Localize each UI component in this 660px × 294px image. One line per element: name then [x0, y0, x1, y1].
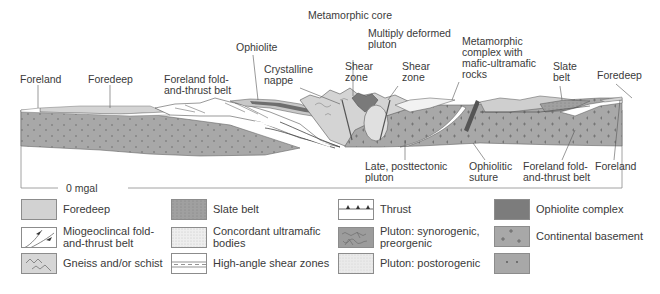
legend-pluton-synorogenic: Pluton: synorogenic, preorgenic [338, 226, 480, 249]
label-ophiolite: Ophiolite [236, 42, 277, 53]
legend-thrust: Thrust [338, 199, 411, 220]
legend-ophiolite-complex: Ophiolite complex [494, 199, 623, 220]
label-metamorphic-complex: Metamorphic complex with mafic-ultramafi… [462, 36, 536, 80]
plus-pattern-icon [495, 227, 530, 247]
label-shear-zone-left: Shear zone [345, 61, 373, 83]
legend-ultramafic: Concordant ultramafic bodies [171, 226, 321, 249]
label-shear-zone-right: Shear zone [402, 61, 430, 83]
thrust-swatch [338, 199, 374, 220]
label-foreland-right: Foreland [595, 161, 636, 172]
dot-pattern-icon [495, 254, 530, 274]
legend-shear-zones: High-angle shear zones [171, 253, 329, 274]
legend-pluton-postorogenic: Pluton: postorogenic [338, 253, 480, 274]
pluton-syn-swatch [338, 227, 374, 248]
wavy-lines-icon [22, 254, 57, 274]
label-metamorphic-core: Metamorphic core [308, 10, 392, 21]
ultramafic-swatch [171, 227, 207, 248]
legend-slate-belt: Slate belt [171, 199, 259, 220]
pluton-post-swatch [338, 253, 374, 274]
legend-gneiss: Gneiss and/or schist [21, 253, 163, 274]
ophiolite-swatch [494, 199, 530, 220]
legend-continental-basement: Continental basement [494, 226, 643, 247]
thrust-arrows-icon [22, 228, 57, 248]
miogeoclinal-swatch [21, 227, 57, 248]
label-multiply-deformed-pluton: Multiply deformed pluton [368, 28, 451, 50]
basement-plus-swatch [494, 226, 530, 247]
label-foredeep-right: Foredeep [597, 70, 642, 81]
legend-foredeep: Foredeep [21, 199, 110, 220]
label-ophiolitic-suture: Ophiolitic suture [469, 161, 512, 183]
thrust-symbol-icon [339, 200, 374, 220]
label-slate-belt: Slate belt [553, 61, 577, 83]
slate-belt-swatch [171, 199, 207, 220]
basement-dot-swatch [494, 253, 530, 274]
label-late-pluton: Late, posttectonic pluton [365, 161, 447, 183]
gravity-baseline-label: 0 mgal [63, 183, 101, 194]
foredeep-swatch [21, 199, 57, 220]
shear-zone-swatch [171, 253, 207, 274]
label-foreland-left: Foreland [20, 74, 61, 85]
label-foredeep-left: Foredeep [88, 74, 133, 85]
label-foreland-fold-left: Foreland fold- and-thrust belt [164, 74, 231, 96]
dashed-lines-icon [172, 254, 207, 274]
gneiss-swatch [21, 253, 57, 274]
legend-basement-dots [494, 253, 536, 274]
label-foreland-fold-right: Foreland fold- and-thrust belt [523, 161, 590, 183]
legend-miogeoclinal: Miogeoclincal fold- and-thrust belt [21, 226, 154, 249]
squiggle-icon [339, 228, 374, 248]
label-crystalline-nappe: Crystalline nappe [264, 64, 313, 86]
